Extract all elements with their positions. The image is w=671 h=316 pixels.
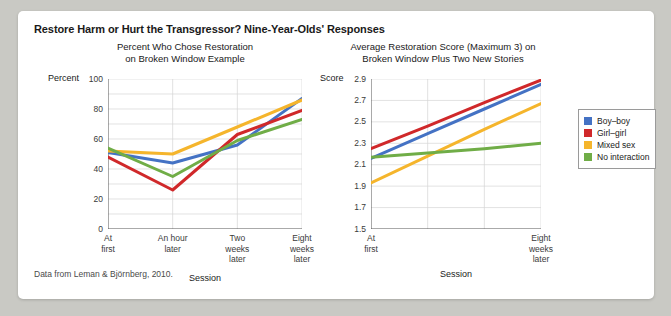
panel-subtitle-left: Percent Who Chose Restoration on Broken … <box>40 41 330 65</box>
legend-item-label: Mixed sex <box>597 140 635 150</box>
x-tick-label: Atfirst <box>341 233 401 254</box>
y-tick-label: 2.5 <box>337 116 366 126</box>
legend-color-swatch <box>584 129 592 137</box>
y-tick-label: 60 <box>74 134 103 144</box>
panel-subtitle-right-line2: Broken Window Plus Two New Stories <box>318 53 568 65</box>
y-tick-label: 1.5 <box>337 224 366 234</box>
x-axis-title-right: Session <box>371 269 541 279</box>
panel-subtitle-right: Average Restoration Score (Maximum 3) on… <box>318 41 568 65</box>
figure-title: Restore Harm or Hurt the Transgressor? N… <box>34 23 385 35</box>
panel-subtitle-left-line2: on Broken Window Example <box>40 53 330 65</box>
y-tick-label: 80 <box>74 104 103 114</box>
legend-item-label: Girl–girl <box>597 128 626 138</box>
y-tick-label: 20 <box>74 194 103 204</box>
y-tick-label: 0 <box>74 224 103 234</box>
plot-area-left <box>108 79 302 229</box>
y-tick-label: 2.7 <box>337 95 366 105</box>
figure-card: Restore Harm or Hurt the Transgressor? N… <box>18 11 654 299</box>
legend-item[interactable]: Boy–boy <box>584 115 649 127</box>
plot-area-right <box>371 79 541 229</box>
line-chart-left <box>108 79 302 229</box>
y-tick-label: 100 <box>74 74 103 84</box>
y-tick-label: 2.3 <box>337 138 366 148</box>
chart-legend: Boy–boyGirl–girlMixed sexNo interaction <box>578 109 656 169</box>
source-note: Data from Leman & Björnberg, 2010. <box>34 269 173 279</box>
legend-color-swatch <box>584 153 592 161</box>
x-tick-label: Eightweekslater <box>511 233 571 265</box>
y-tick-label: 2.9 <box>337 74 366 84</box>
legend-item[interactable]: Girl–girl <box>584 127 649 139</box>
x-tick-label: Atfirst <box>78 233 138 254</box>
y-tick-label: 2.1 <box>337 159 366 169</box>
legend-item[interactable]: No interaction <box>584 151 649 163</box>
x-tick-label: Twoweekslater <box>207 233 267 265</box>
panel-subtitle-right-line1: Average Restoration Score (Maximum 3) on <box>318 41 568 53</box>
legend-color-swatch <box>584 117 592 125</box>
chart-panel-restoration-score: Average Restoration Score (Maximum 3) on… <box>318 41 568 281</box>
legend-item[interactable]: Mixed sex <box>584 139 649 151</box>
y-tick-label: 1.9 <box>337 181 366 191</box>
panel-subtitle-left-line1: Percent Who Chose Restoration <box>40 41 330 53</box>
y-tick-label: 40 <box>74 164 103 174</box>
legend-color-swatch <box>584 141 592 149</box>
x-tick-label: An hourlater <box>143 233 203 254</box>
legend-item-label: Boy–boy <box>597 116 630 126</box>
chart-panel-percent-restoration: Percent Who Chose Restoration on Broken … <box>40 41 330 281</box>
legend-item-label: No interaction <box>597 152 649 162</box>
y-tick-label: 1.7 <box>337 202 366 212</box>
line-chart-right <box>371 79 541 229</box>
